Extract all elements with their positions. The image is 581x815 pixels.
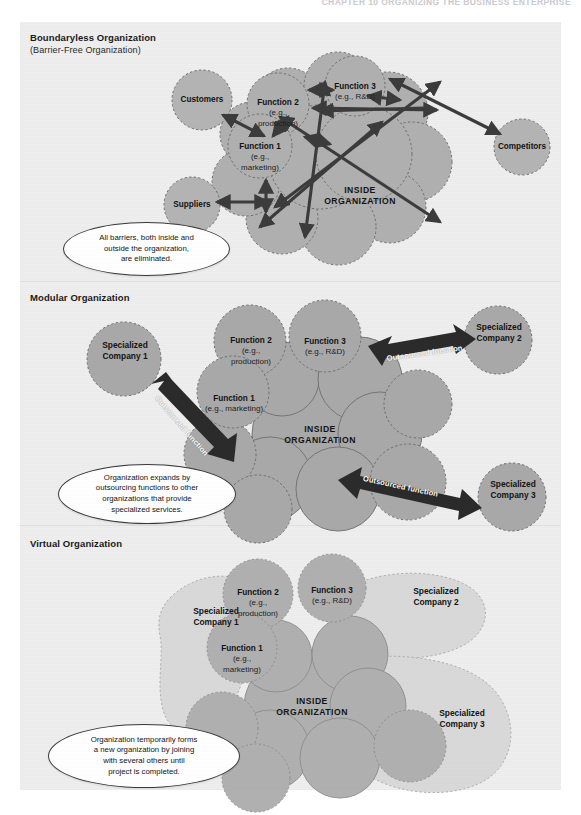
label-specialized-company-3: Specialized Company 3 bbox=[472, 479, 554, 500]
panel-title-text: Boundaryless Organization bbox=[30, 32, 156, 43]
panel-virtual: Virtual Organization Specialized Company… bbox=[20, 528, 561, 790]
arrow-label-outsourced-3: Outsourced function bbox=[362, 474, 439, 499]
label-function-3: Function 3 (e.g., R&D) bbox=[294, 576, 370, 617]
label-function-2-eg: (e.g., production) bbox=[220, 598, 296, 618]
label-inside-organization: INSIDE ORGANIZATION bbox=[310, 185, 410, 207]
callout-boundaryless-text: All barriers, both inside and outside th… bbox=[89, 233, 203, 265]
chapter-running-head: CHAPTER 10 ORGANIZING THE BUSINESS ENTER… bbox=[0, 0, 581, 14]
label-specialized-company-1: Specialized Company 1 bbox=[84, 340, 166, 361]
label-specialized-company-3: Specialized Company 3 bbox=[418, 708, 506, 729]
label-inside-organization: INSIDE ORGANIZATION bbox=[270, 424, 370, 446]
panel-boundaryless: Boundaryless Organization (Barrier-Free … bbox=[20, 22, 561, 282]
label-specialized-company-2: Specialized Company 2 bbox=[392, 586, 480, 607]
callout-virtual-text: Organization temporarily forms a new org… bbox=[81, 735, 208, 777]
label-function-3-title: Function 3 bbox=[334, 82, 375, 91]
label-function-3: Function 3 (e.g., R&D) bbox=[317, 72, 393, 113]
label-function-1: Function 1 (e.g., marketing) bbox=[222, 132, 298, 183]
label-function-1-eg: (e.g., marketing) bbox=[204, 654, 280, 674]
panel-title-boundaryless: Boundaryless Organization (Barrier-Free … bbox=[30, 32, 156, 56]
label-function-3-eg: (e.g., R&D) bbox=[286, 347, 364, 357]
label-specialized-company-1: Specialized Company 1 bbox=[172, 606, 260, 627]
label-function-1-title: Function 1 bbox=[213, 394, 254, 403]
label-function-1-title: Function 1 bbox=[221, 644, 262, 653]
figure-page: CHAPTER 10 ORGANIZING THE BUSINESS ENTER… bbox=[0, 0, 581, 815]
label-function-2: Function 2 (e.g., production) bbox=[220, 578, 296, 629]
callout-boundaryless: All barriers, both inside and outside th… bbox=[63, 222, 230, 276]
label-function-1: Function 1 (e.g., marketing) bbox=[204, 634, 280, 685]
label-function-2: Function 2 (e.g., production) bbox=[240, 88, 316, 139]
panel-modular: Modular Organization Specialized Company… bbox=[20, 284, 561, 524]
callout-modular-text: Organization expands by outsourcing func… bbox=[86, 473, 208, 515]
callout-virtual: Organization temporarily forms a new org… bbox=[48, 724, 240, 788]
arrow-label-outsourced-1: Outsourced function bbox=[153, 394, 210, 458]
label-function-3-title: Function 3 bbox=[311, 586, 352, 595]
label-function-3: Function 3 (e.g., R&D) bbox=[286, 327, 364, 368]
label-function-2-eg: (e.g., production) bbox=[212, 346, 290, 366]
label-function-1-eg: (e.g., marketing) bbox=[222, 152, 298, 172]
figure-canvas: Boundaryless Organization (Barrier-Free … bbox=[20, 22, 561, 790]
arrow-label-outsourced-2: Outsourced function bbox=[386, 343, 463, 363]
label-function-2: Function 2 (e.g., production) bbox=[212, 326, 290, 377]
label-function-1: Function 1 (e.g., marketing) bbox=[180, 384, 288, 425]
panel-title-text: Modular Organization bbox=[30, 292, 130, 303]
panel-subtitle-text: (Barrier-Free Organization) bbox=[30, 44, 156, 56]
label-function-3-title: Function 3 bbox=[304, 337, 345, 346]
panel-title-modular: Modular Organization bbox=[30, 292, 130, 304]
label-function-2-title: Function 2 bbox=[257, 98, 298, 107]
label-function-2-title: Function 2 bbox=[237, 588, 278, 597]
label-function-3-eg: (e.g., R&D) bbox=[317, 92, 393, 102]
label-function-2-title: Function 2 bbox=[230, 336, 271, 345]
label-function-1-eg: (e.g., marketing) bbox=[180, 404, 288, 414]
label-specialized-company-2: Specialized Company 2 bbox=[458, 322, 540, 343]
label-inside-organization: INSIDE ORGANIZATION bbox=[262, 696, 362, 718]
panel-title-text: Virtual Organization bbox=[30, 538, 122, 549]
label-function-1-title: Function 1 bbox=[239, 142, 280, 151]
label-function-3-eg: (e.g., R&D) bbox=[294, 596, 370, 606]
chapter-running-head-text: CHAPTER 10 ORGANIZING THE BUSINESS ENTER… bbox=[322, 0, 571, 7]
label-competitors: Competitors bbox=[482, 142, 562, 152]
panel-title-virtual: Virtual Organization bbox=[30, 538, 122, 550]
label-function-2-eg: (e.g., production) bbox=[240, 108, 316, 128]
label-suppliers: Suppliers bbox=[152, 200, 232, 210]
label-customers: Customers bbox=[162, 95, 242, 105]
callout-modular: Organization expands by outsourcing func… bbox=[58, 464, 236, 524]
